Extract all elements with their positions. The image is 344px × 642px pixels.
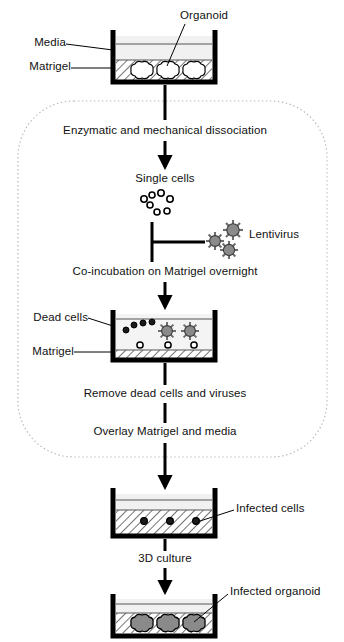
- virus-particle: [158, 322, 176, 340]
- dish-organoid: [113, 30, 215, 82]
- virus-particle: [181, 322, 199, 340]
- cell-dot: [137, 342, 143, 348]
- organoid-blob: [183, 61, 205, 78]
- cell-dot: [164, 208, 170, 214]
- label-matrigel-top: Matrigel: [29, 60, 71, 73]
- cell-dot: [165, 342, 171, 348]
- dead-cell-dot: [131, 322, 137, 328]
- cell-dot: [147, 202, 153, 208]
- cell-dot: [154, 209, 160, 215]
- infected-organoid-blob: [157, 614, 179, 631]
- dead-cell-dot: [123, 327, 129, 333]
- dead-cell-dot: [140, 320, 146, 326]
- cell-dot: [149, 192, 155, 198]
- label-infected-organoid: Infected organoid: [230, 585, 321, 598]
- label-remove-dead-cells: Remove dead cells and viruses: [84, 387, 247, 400]
- infected-cell-dot: [167, 518, 174, 525]
- label-overlay-matrigel: Overlay Matrigel and media: [93, 425, 236, 438]
- cell-dot: [158, 190, 164, 196]
- label-3d-culture: 3D culture: [138, 552, 191, 565]
- single-cells-cluster: [141, 190, 173, 215]
- dish-infected-cells: [113, 488, 215, 536]
- label-media: Media: [34, 36, 66, 49]
- label-matrigel-mid: Matrigel: [32, 345, 74, 358]
- label-dead-cells: Dead cells: [33, 311, 88, 324]
- lentivirus-particles: [206, 220, 243, 259]
- virus-particle: [220, 241, 238, 259]
- label-infected-cells: Infected cells: [236, 502, 305, 515]
- label-lentivirus: Lentivirus: [249, 228, 299, 241]
- label-organoid: Organoid: [180, 9, 228, 22]
- leader-media: [66, 44, 113, 50]
- virus-particle: [223, 220, 243, 240]
- dish-infected-organoid: [113, 594, 215, 636]
- organoid-blob: [131, 61, 153, 78]
- virus-particle: [206, 232, 224, 250]
- cell-dot: [191, 342, 197, 348]
- protocol-boundary-box: [18, 101, 327, 457]
- infected-cell-dot: [141, 518, 148, 525]
- infected-organoid-blob: [131, 614, 153, 631]
- cell-dot: [141, 196, 147, 202]
- cell-dot: [167, 196, 173, 202]
- leader-dead-cells: [88, 318, 113, 326]
- label-enzymatic-dissociation: Enzymatic and mechanical dissociation: [63, 124, 267, 137]
- infected-organoid-blob: [183, 614, 205, 631]
- figure-canvas: Organoid Media Matrigel Enzymatic and me…: [0, 0, 344, 642]
- dish-coincubation: [113, 310, 215, 360]
- label-coincubation: Co-incubation on Matrigel overnight: [72, 265, 257, 278]
- dead-cell-dot: [149, 319, 155, 325]
- infected-cell-dot: [193, 518, 200, 525]
- label-single-cells: Single cells: [135, 172, 194, 185]
